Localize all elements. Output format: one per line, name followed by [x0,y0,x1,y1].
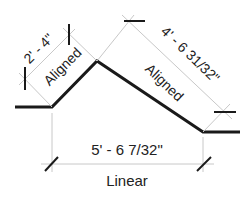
dimension-type-label: Aligned [142,60,187,104]
dimension-value: 5' - 6 7/32" [91,141,163,158]
bottom-linear-dimension: 5' - 6 7/32" Linear [41,113,214,189]
extension-line [203,104,230,132]
dimension-value: 2' - 4" [20,30,57,67]
left-aligned-dimension: 2' - 4" Aligned [19,24,97,107]
dimension-diagram: 2' - 4" Aligned 4' - 6 31/32" Aligned 5'… [0,0,251,197]
dimension-type-label: Linear [106,172,148,189]
